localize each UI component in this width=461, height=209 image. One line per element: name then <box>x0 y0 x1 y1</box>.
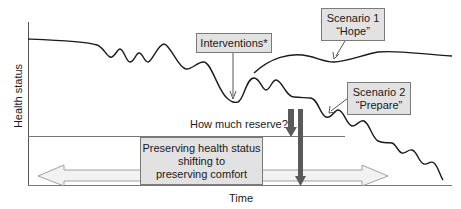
scenario2-subtitle: “Prepare” <box>356 99 402 112</box>
scenario2-pointer <box>331 98 348 111</box>
scenario1-title: Scenario 1 <box>327 12 380 25</box>
scenario1-box: Scenario 1 “Hope” <box>321 8 385 41</box>
scenario2-box: Scenario 2 “Prepare” <box>347 82 411 115</box>
y-axis-label: Health status <box>12 56 24 136</box>
scenario1-subtitle: “Hope” <box>336 25 370 38</box>
scenario2-title: Scenario 2 <box>353 86 406 99</box>
center-line-3: preserving comfort <box>156 168 247 181</box>
preserving-comfort-box: Preserving health status shifting to pre… <box>140 137 263 185</box>
center-line-1: Preserving health status <box>142 142 260 155</box>
interventions-box: Interventions* <box>196 33 272 53</box>
scenario1-pointer <box>336 41 345 56</box>
x-axis-label: Time <box>229 192 253 205</box>
health-curve-scenario-1 <box>254 51 452 73</box>
center-line-2: shifting to <box>178 155 225 168</box>
reserve-question-label: How much reserve? <box>190 118 288 131</box>
interventions-label: Interventions* <box>200 37 267 50</box>
